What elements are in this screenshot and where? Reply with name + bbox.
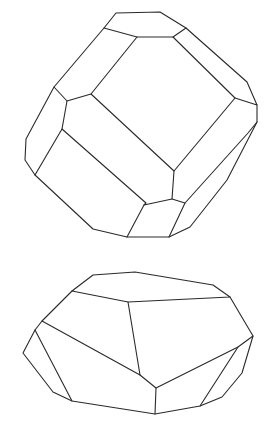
crystal-drawing (0, 0, 269, 427)
upper-crystal-edge (62, 94, 174, 205)
lower-crystal-edge (140, 375, 156, 414)
lower-crystal-edge (72, 272, 230, 302)
upper-crystal-edge (104, 12, 186, 37)
lower-crystal-edge (23, 291, 253, 414)
lower-crystal-edge (156, 336, 253, 388)
upper-crystal-edge (185, 122, 257, 203)
upper-crystal-edge (169, 199, 185, 237)
lower-crystal-edge (35, 330, 72, 401)
lower-crystal-edge (200, 347, 238, 406)
upper-crystal-edge (173, 28, 257, 105)
upper-crystal-edge (127, 205, 144, 237)
crystal-figure (0, 0, 269, 427)
upper-crystal-edge (54, 28, 137, 101)
upper-crystal-edge (35, 101, 67, 175)
upper-crystal-edge (174, 98, 235, 171)
lower-crystal (23, 272, 253, 414)
upper-crystal (25, 12, 257, 237)
lower-crystal-edge (42, 302, 140, 375)
